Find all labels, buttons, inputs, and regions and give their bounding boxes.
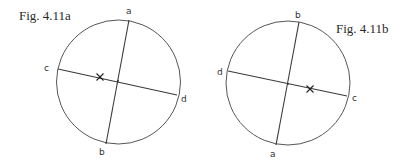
point-label-a: a xyxy=(270,149,276,159)
figure-4-11a: Fig. 4.11a a b c d xyxy=(19,6,187,157)
figure-caption: Fig. 4.11b xyxy=(336,21,389,36)
figure-canvas: Fig. 4.11a a b c d Fig. 4.11b b a d c xyxy=(0,0,404,166)
cross-mark-icon xyxy=(97,74,104,81)
point-label-c: c xyxy=(352,93,357,103)
intersection-point xyxy=(117,80,119,82)
point-label-d: d xyxy=(217,67,223,77)
figure-caption: Fig. 4.11a xyxy=(19,8,71,23)
point-label-c: c xyxy=(44,63,49,73)
chord-cd xyxy=(58,69,177,95)
point-label-b: b xyxy=(295,10,301,20)
point-label-d: d xyxy=(181,94,187,104)
figure-4-11b: Fig. 4.11b b a d c xyxy=(217,10,389,159)
point-label-a: a xyxy=(126,6,132,16)
point-label-b: b xyxy=(99,147,105,157)
intersection-point xyxy=(287,83,289,85)
